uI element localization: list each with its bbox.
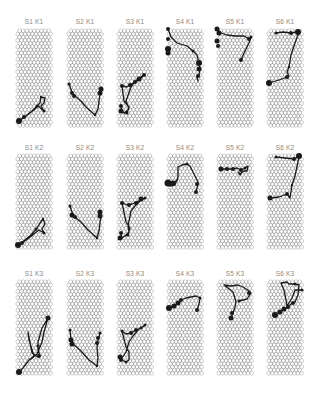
fixation-dot — [195, 308, 199, 312]
hex-grid — [67, 29, 103, 128]
panel-label: S6 K3 — [265, 270, 305, 277]
fixation-dot — [118, 236, 123, 241]
fixation-dot — [192, 50, 195, 53]
fixation-dot — [142, 73, 146, 77]
fixation-dot — [139, 197, 144, 202]
fixation-dot — [292, 157, 296, 161]
panel-label: S6 K2 — [265, 144, 305, 151]
fixation-dot — [96, 237, 98, 239]
fixation-dot — [179, 298, 183, 302]
fixation-dot — [294, 283, 297, 286]
trajectory-figure: S1 K1S2 K1S3 K1S4 K1S5 K1S6 K1S1 K2S2 K2… — [0, 0, 318, 396]
fixation-dot — [35, 228, 38, 231]
panel-label: S1 K2 — [14, 144, 54, 151]
panel-label: S3 K2 — [115, 144, 155, 151]
trajectory-panel — [16, 29, 52, 126]
fixation-dot — [137, 77, 142, 82]
panel-label: S1 K3 — [14, 270, 54, 277]
fixation-dot — [42, 218, 44, 220]
fixation-dot — [36, 105, 39, 108]
fixation-dot — [140, 327, 143, 330]
panel-label: S6 K1 — [265, 18, 305, 25]
fixation-dot — [196, 60, 202, 66]
fixation-dot — [98, 210, 103, 215]
fixation-dot — [282, 307, 287, 312]
fixation-dot — [119, 231, 123, 235]
trajectory-path — [19, 318, 48, 372]
trajectory-panel — [67, 29, 103, 126]
fixation-dot — [144, 197, 147, 200]
fixation-dot — [171, 181, 176, 186]
fixation-dot — [229, 316, 234, 321]
fixation-dot — [43, 110, 46, 113]
fixation-dot — [133, 80, 137, 84]
fixation-dot — [239, 58, 243, 62]
fixation-dot — [119, 358, 123, 362]
fixation-dot — [215, 39, 220, 44]
panel-label: S5 K1 — [215, 18, 255, 25]
trajectory-panel — [267, 154, 303, 250]
fixation-dot — [250, 36, 253, 39]
fixation-dot — [275, 32, 278, 35]
fixation-dot — [285, 75, 289, 79]
fixation-dot — [225, 167, 229, 171]
panel-label: S4 K1 — [165, 18, 205, 25]
fixation-dot — [230, 311, 234, 315]
fixation-dot — [22, 115, 26, 119]
fixation-dot — [219, 167, 224, 172]
hex-grid — [16, 29, 52, 128]
fixation-dot — [127, 234, 130, 237]
trajectory-panel — [16, 280, 52, 376]
trajectory-panel — [267, 280, 303, 376]
fixation-dot — [73, 215, 77, 219]
hex-grid — [267, 154, 303, 250]
fixation-dot — [239, 173, 242, 176]
fixation-dot — [134, 201, 138, 205]
fixation-dot — [96, 365, 98, 367]
fixation-dot — [278, 310, 283, 315]
trajectory-panel — [16, 154, 52, 250]
fixation-dot — [127, 203, 131, 207]
fixation-dot — [196, 74, 200, 78]
fixation-dot — [16, 369, 22, 375]
fixation-dot — [144, 324, 147, 327]
trajectory-panel — [267, 29, 303, 126]
trajectory-panel — [67, 280, 103, 376]
fixation-dot — [166, 305, 172, 311]
hex-grid — [16, 154, 52, 250]
panel-label: S5 K3 — [215, 270, 255, 277]
fixation-dot — [268, 196, 273, 201]
fixation-dot — [301, 289, 304, 292]
fixation-dot — [286, 305, 290, 309]
fixation-dot — [172, 304, 177, 309]
fixation-dot — [120, 201, 124, 205]
fixation-dot — [134, 328, 138, 332]
hex-grid — [16, 280, 52, 376]
fixation-dot — [216, 44, 220, 48]
trajectory-path — [224, 285, 251, 318]
fixation-dot — [272, 312, 278, 318]
fixation-dot — [43, 232, 46, 235]
fixation-dot — [288, 66, 290, 68]
panel-label: S1 K1 — [14, 18, 54, 25]
trajectory-path — [70, 330, 100, 366]
fixation-dot — [99, 332, 102, 335]
panel-label: S4 K3 — [165, 270, 205, 277]
trajectory-path — [217, 29, 251, 60]
panel-label: S2 K1 — [65, 18, 105, 25]
hex-grid — [167, 154, 203, 250]
hex-grid — [167, 280, 203, 376]
fixation-dot — [119, 104, 123, 108]
hex-grid — [217, 29, 253, 128]
fixation-dot — [69, 329, 72, 332]
fixation-dot — [247, 291, 251, 295]
fixation-dot — [291, 184, 293, 186]
trajectory-path — [121, 198, 145, 238]
fixation-dot — [40, 96, 42, 98]
panel-label: S3 K1 — [115, 18, 155, 25]
fixation-dot — [194, 190, 198, 194]
fixation-dot — [96, 336, 100, 340]
trajectory-panel — [167, 154, 203, 250]
trajectory-panel — [117, 154, 153, 250]
fixation-dot — [129, 331, 133, 335]
